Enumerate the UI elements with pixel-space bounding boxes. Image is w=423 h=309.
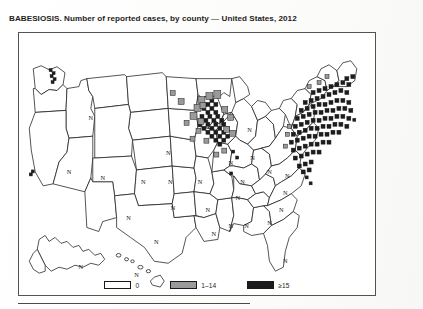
legend-swatch-high	[247, 281, 274, 289]
no-report-marker-ak: N	[79, 263, 84, 270]
legend-label-zero: 0	[135, 282, 139, 289]
no-report-marker-ga: N	[267, 219, 272, 226]
figure-title: BABESIOSIS. Number of reported cases, by…	[9, 13, 297, 24]
no-report-marker-in: N	[228, 159, 233, 166]
legend-label-high: ≥15	[278, 282, 289, 289]
legend-entry-low: 1–14	[170, 281, 216, 289]
legend-swatch-low	[170, 281, 197, 289]
map-frame: .st { fill:#ffffff; stroke:#1a1a1a; stro…	[18, 32, 376, 296]
no-report-marker-mo: N	[198, 178, 203, 185]
document-page: BABESIOSIS. Number of reported cases, by…	[0, 0, 423, 309]
no-report-marker-sc: N	[279, 206, 284, 213]
no-report-marker-al: N	[244, 222, 249, 229]
no-report-marker-oh: N	[250, 154, 255, 161]
no-report-marker-ky: N	[240, 178, 245, 185]
us-county-map[interactable]: .st { fill:#ffffff; stroke:#1a1a1a; stro…	[19, 33, 375, 295]
no-report-marker-tx: N	[154, 238, 159, 245]
no-report-marker-ok: N	[171, 204, 176, 211]
no-report-marker-mi: N	[247, 126, 252, 133]
legend-entry-high: ≥15	[247, 281, 289, 289]
legend-swatch-zero	[104, 281, 131, 289]
map-legend: 0 1–14 ≥15	[19, 281, 375, 289]
no-report-marker-nm: N	[126, 214, 131, 221]
no-report-marker-tn: N	[235, 194, 240, 201]
no-report-marker-la: N	[212, 230, 217, 237]
no-report-marker-ne: N	[166, 149, 171, 156]
no-report-marker-co: N	[141, 178, 146, 185]
no-report-marker-ms: N	[228, 222, 233, 229]
footer-rule	[18, 303, 250, 304]
legend-label-low: 1–14	[201, 282, 216, 289]
no-report-marker-ks: N	[168, 178, 173, 185]
state-outlines	[29, 61, 357, 271]
no-report-marker-va: N	[285, 172, 290, 179]
no-report-marker-hi: N	[134, 271, 139, 278]
no-report-marker-nc: N	[283, 189, 288, 196]
no-report-marker-fl: N	[283, 257, 288, 264]
no-report-marker-nv: N	[67, 168, 72, 175]
no-report-marker-id: N	[89, 114, 94, 121]
legend-entry-zero: 0	[104, 281, 139, 289]
no-report-marker-ar: N	[206, 206, 211, 213]
no-report-marker-wv: N	[267, 168, 272, 175]
no-report-marker-ut: N	[100, 174, 105, 181]
alaska-inset	[29, 235, 104, 273]
